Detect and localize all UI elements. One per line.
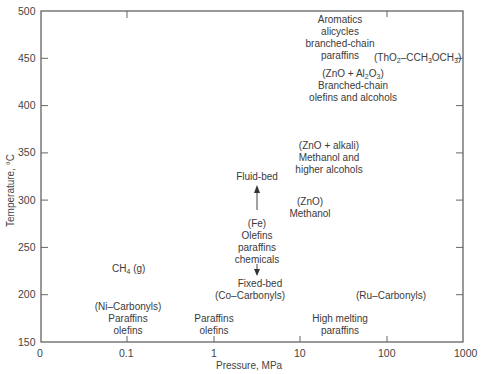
x-tick-0: 0 — [37, 347, 43, 359]
label-fixed-bed-co: Fixed-bed(Co–Carbonyls) — [200, 278, 300, 302]
label-ru-carbonyls: (Ru–Carbonyls) — [356, 290, 426, 302]
y-tick-300: 300 — [18, 194, 36, 206]
x-tick-1000: 1000 — [454, 347, 477, 359]
label-zno-al2o3: (ZnO + Al2O3) Branched-chainolefins and … — [298, 68, 408, 104]
y-tick-400: 400 — [18, 99, 36, 111]
arrow-up-fluid-bed — [254, 185, 260, 210]
y-tick-450: 450 — [18, 52, 36, 64]
label-ch4: CH4 (g) — [112, 263, 145, 275]
y-axis-title: Temperature, °C — [5, 151, 16, 231]
x-tick-0.1: 0.1 — [119, 347, 134, 359]
y-tick-350: 350 — [18, 146, 36, 158]
label-fe: (Fe)Olefinsparaffinschemicals — [222, 218, 292, 266]
label-zno-alkali: (ZnO + alkali)Methanol andhigher alcohol… — [284, 140, 374, 176]
label-high-melting: High meltingparaffins — [300, 313, 380, 337]
y-tick-150: 150 — [18, 336, 36, 348]
label-aromatics: Aromaticsalicyclesbranched-chainparaffin… — [296, 14, 384, 62]
label-paraffins-olefins: Paraffinsolefins — [182, 313, 246, 337]
y-tick-500: 500 — [18, 5, 36, 17]
label-fluid-bed: Fluid-bed — [228, 171, 286, 183]
x-tick-1: 1 — [211, 347, 217, 359]
x-axis-title: Pressure, MPa — [216, 360, 282, 371]
label-tho2: (ThO2–CCH3OCH3) — [374, 52, 461, 64]
y-tick-250: 250 — [18, 241, 36, 253]
label-zno-methanol: (ZnO)Methanol — [280, 196, 340, 220]
label-ni-carbonyls: (Ni–Carbonyls)Paraffinsolefins — [88, 301, 168, 337]
y-tick-200: 200 — [18, 288, 36, 300]
x-tick-100: 100 — [378, 347, 396, 359]
x-tick-10: 10 — [294, 347, 306, 359]
